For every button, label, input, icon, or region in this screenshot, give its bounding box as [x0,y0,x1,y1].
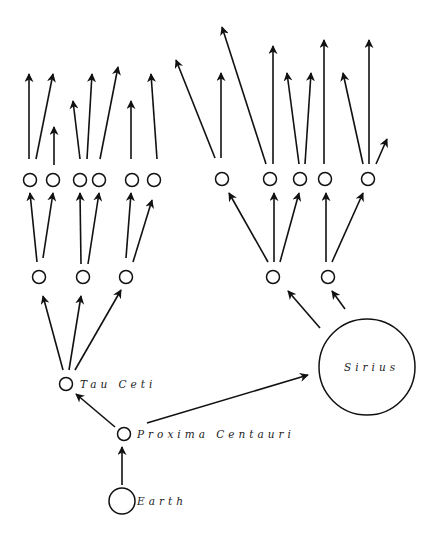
arrow-l4-to-out [100,67,118,159]
node-earth [109,488,135,514]
node-l3 [74,174,87,187]
arrow-l1-to-out [36,74,53,159]
arrow-t2-to-l3 [80,193,81,264]
node-l5 [126,174,139,187]
nodes-layer [24,173,416,515]
arrow-r3-to-out [287,73,299,164]
arrow-sirius-to-s1 [288,291,320,328]
node-t1 [33,271,46,284]
arrow-proxima-to-tau [76,394,115,427]
diagram-svg: EarthProxima CentauriTau CetiSirius [0,0,436,546]
arrow-r3-to-out [305,73,311,164]
arrow-s2-to-r5 [332,193,363,262]
label-earth: Earth [136,495,187,507]
arrow-t1-to-l2 [43,193,53,258]
label-tau: Tau Ceti [80,378,156,390]
node-s1 [267,271,280,284]
node-l4 [93,174,106,187]
arrow-r1-to-out [176,60,215,158]
node-r5 [362,173,375,186]
node-tau [60,378,73,391]
arrow-t3-to-l6 [133,200,152,262]
node-r2 [264,173,277,186]
node-s2 [322,271,335,284]
arrow-sirius-to-s2 [332,291,345,309]
node-t2 [77,271,90,284]
arrow-l6-to-out [151,74,157,159]
arrow-t1-to-l1 [30,193,37,262]
node-l6 [148,174,161,187]
node-r4 [319,173,332,186]
arrow-t2-to-l4 [88,193,99,264]
arrow-tau-to-t3 [75,290,121,370]
arrow-s1-to-r3 [280,193,299,262]
arrow-proxima-to-sirius [147,375,308,423]
node-proxima [118,428,131,441]
edges-layer [29,27,387,485]
tree-diagram: EarthProxima CentauriTau CetiSirius [0,0,436,546]
node-l2 [47,174,60,187]
arrow-t3-to-l5 [126,193,131,258]
arrow-s1-to-r1 [229,193,268,262]
node-l1 [24,174,37,187]
node-t3 [120,271,133,284]
node-r1 [216,173,229,186]
label-proxima: Proxima Centauri [136,428,295,440]
arrow-tau-to-t1 [43,296,63,370]
arrow-l3-to-out [87,74,92,159]
node-r3 [294,173,307,186]
arrow-r5-to-out [376,139,387,164]
arrow-tau-to-t2 [69,296,81,370]
arrow-r2-to-out [222,27,266,164]
arrow-l3-to-out [73,101,80,159]
arrow-r5-to-out [343,73,363,164]
label-sirius: Sirius [344,361,399,373]
